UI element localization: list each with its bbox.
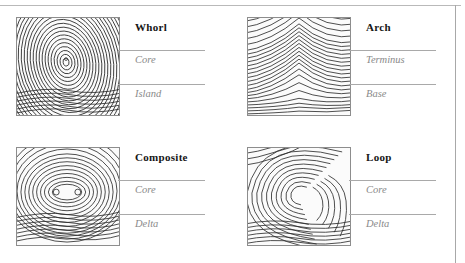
- leader-line-composite-1: [118, 180, 205, 181]
- callout-arch-base: Base: [366, 88, 386, 99]
- page-rule-right: [455, 5, 456, 263]
- leader-line-loop-2: [349, 214, 436, 215]
- leader-line-loop-1: [349, 180, 436, 181]
- fingerprint-image-whorl: [16, 17, 120, 116]
- callout-composite-delta: Delta: [135, 218, 158, 229]
- page-rule-top: [0, 5, 461, 6]
- fingerprint-image-composite: [16, 147, 120, 246]
- callout-loop-delta: Delta: [366, 218, 389, 229]
- callout-whorl-island: Island: [135, 88, 161, 99]
- callout-composite-core: Core: [135, 184, 156, 195]
- panel-title-loop: Loop: [366, 151, 392, 163]
- panel-title-arch: Arch: [366, 21, 391, 33]
- leader-line-whorl-1: [118, 50, 205, 51]
- panel-title-composite: Composite: [135, 151, 188, 163]
- fingerprint-image-arch: [247, 17, 351, 116]
- leader-line-whorl-2: [118, 84, 205, 85]
- panel-title-whorl: Whorl: [135, 21, 167, 33]
- callout-whorl-core: Core: [135, 54, 156, 65]
- leader-line-arch-2: [349, 84, 436, 85]
- leader-line-arch-1: [349, 50, 436, 51]
- leader-line-composite-2: [118, 214, 205, 215]
- callout-loop-core: Core: [366, 184, 387, 195]
- callout-arch-terminus: Terminus: [366, 54, 405, 65]
- fingerprint-image-loop: [247, 147, 351, 246]
